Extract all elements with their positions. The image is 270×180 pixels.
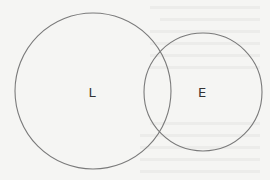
venn-svg: L E — [0, 0, 270, 180]
set-l-label: L — [88, 85, 96, 100]
set-e-label: E — [198, 85, 206, 100]
venn-diagram: L E — [0, 0, 270, 180]
